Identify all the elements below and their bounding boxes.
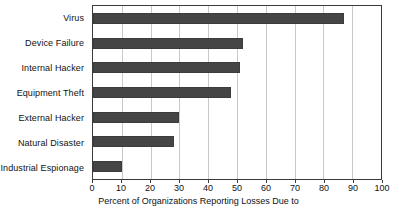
tick-label: 0 (89, 183, 94, 194)
bar (93, 13, 344, 24)
bar-row (93, 80, 381, 105)
category-label: Virus (63, 13, 88, 23)
x-axis-title: Percent of Organizations Reporting Losse… (0, 195, 397, 207)
bar (93, 87, 231, 98)
bar (93, 62, 240, 73)
tick-label: 90 (348, 183, 358, 194)
tick-label: 20 (145, 183, 155, 194)
bar (93, 38, 243, 49)
category-label: External Hacker (18, 113, 88, 123)
bar (93, 161, 122, 172)
bar-row (93, 105, 381, 130)
tick-label: 30 (174, 183, 184, 194)
bar-row (93, 130, 381, 155)
tick-label: 100 (374, 183, 389, 194)
tick-label: 50 (232, 183, 242, 194)
category-axis: VirusDevice FailureInternal HackerEquipm… (0, 5, 88, 180)
value-axis: 0102030405060708090100 (92, 180, 382, 196)
category-label: Industrial Espionage (0, 163, 88, 173)
bar-row (93, 154, 381, 179)
tick-label: 80 (319, 183, 329, 194)
category-label: Equipment Theft (17, 88, 88, 98)
plot-area (92, 5, 382, 180)
bar (93, 136, 174, 147)
category-label: Natural Disaster (18, 138, 88, 148)
bar-chart: VirusDevice FailureInternal HackerEquipm… (0, 0, 397, 212)
tick-label: 40 (203, 183, 213, 194)
bar-row (93, 31, 381, 56)
category-label: Device Failure (25, 38, 88, 48)
tick-label: 70 (290, 183, 300, 194)
tick-label: 10 (116, 183, 126, 194)
bars-layer (93, 6, 381, 179)
bar-row (93, 6, 381, 31)
bar-row (93, 55, 381, 80)
tick-label: 60 (261, 183, 271, 194)
category-label: Internal Hacker (21, 63, 88, 73)
bar (93, 112, 179, 123)
